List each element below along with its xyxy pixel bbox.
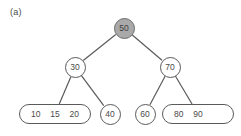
node-key-label: 40: [105, 110, 114, 119]
node-key-slot: 90: [188, 110, 207, 119]
node-key-slot: 10: [26, 110, 45, 119]
node-key-slot: 20: [65, 110, 84, 119]
tree-diagram-figure: (a) 50307010152040608090: [0, 0, 241, 136]
tree-edge-internal-left-to-leaf-1: [59, 77, 71, 104]
tree-edge-internal-right-to-leaf-4: [175, 76, 192, 104]
node-key-label: 50: [119, 24, 128, 33]
tree-node-internal-right: 70: [160, 57, 181, 78]
tree-edge-root-to-internal-left: [83, 35, 116, 61]
node-key-slots: 101520: [26, 105, 84, 123]
node-key-label: 60: [140, 110, 149, 119]
tree-edge-internal-left-to-leaf-2: [81, 75, 103, 105]
node-key-label: 30: [70, 63, 79, 72]
tree-node-root: 50: [114, 18, 135, 39]
tree-edge-root-to-internal-right: [132, 35, 162, 60]
tree-node-leaf-3: 60: [135, 104, 156, 125]
tree-node-internal-left: 30: [65, 57, 86, 78]
tree-node-leaf-4: 8090: [162, 104, 234, 124]
node-key-slots: 8090: [169, 105, 227, 123]
node-key-slot: 15: [45, 110, 64, 119]
tree-node-leaf-1: 101520: [19, 104, 91, 124]
node-key-slot: 80: [169, 110, 188, 119]
tree-node-leaf-2: 40: [100, 104, 121, 125]
node-key-label: 70: [165, 63, 174, 72]
tree-edge-internal-right-to-leaf-3: [150, 76, 165, 104]
